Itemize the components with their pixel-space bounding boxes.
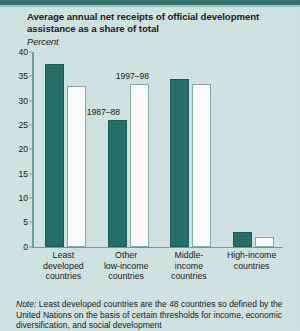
axis-unit-label: Percent	[27, 37, 59, 47]
y-axis-tick-mark	[29, 52, 32, 53]
y-axis-tick-label: 35	[18, 71, 28, 81]
x-label-line: countries	[158, 271, 221, 282]
x-label-group4: High-incomecountries	[220, 250, 283, 271]
plot-area: 0510152025303540 1987–881997–98	[32, 52, 283, 248]
y-axis-tick-label: 20	[18, 144, 28, 154]
y-axis-tick-label: 25	[18, 120, 28, 130]
y-axis-tick-label: 30	[18, 96, 28, 106]
x-label-line: Least	[32, 250, 95, 261]
x-label-line: countries	[95, 271, 158, 282]
x-label-line: High-income	[220, 250, 283, 261]
figure-title: Average annual net receipts of official …	[27, 11, 289, 35]
y-axis-tick-label: 10	[18, 193, 28, 203]
note-label: Note:	[16, 299, 36, 309]
bar-series1-group4	[233, 232, 252, 247]
x-label-line: countries	[220, 261, 283, 272]
x-axis-line	[32, 247, 283, 249]
y-axis-tick-mark	[29, 149, 32, 150]
y-axis-tick-label: 5	[23, 217, 28, 227]
series-annotation-1: 1987–88	[87, 107, 120, 117]
x-label-line: Middle-	[158, 250, 221, 261]
y-axis-tick-mark	[29, 100, 32, 101]
bar-series1-group3	[170, 79, 189, 247]
y-axis-tick-mark	[29, 222, 32, 223]
bar-series1-group2	[108, 120, 127, 246]
note-line-1: Least developed countries are the 48 cou…	[39, 299, 269, 309]
x-label-line: countries	[32, 271, 95, 282]
figure-title-line-1: Average annual net receipts of official …	[27, 11, 289, 23]
x-label-line: Other	[95, 250, 158, 261]
x-label-group3: Middle-incomecountries	[158, 250, 221, 282]
figure-title-line-2: assistance as a share of total	[27, 23, 289, 35]
x-label-group2: Otherlow-incomecountries	[95, 250, 158, 282]
bar-series2-group3	[192, 84, 211, 247]
series-annotation-2: 1997–98	[116, 71, 149, 81]
y-axis-tick-mark	[29, 246, 32, 247]
bar-series1-group1	[45, 64, 64, 246]
y-axis-line	[32, 52, 34, 248]
y-axis-tick-mark	[29, 173, 32, 174]
y-axis-tick-mark	[29, 124, 32, 125]
top-rule-shadow	[0, 5, 300, 7]
bar-series2-group4	[255, 237, 274, 247]
bar-series2-group2	[130, 84, 149, 247]
x-label-line: income	[158, 261, 221, 272]
y-axis-tick-mark	[29, 76, 32, 77]
y-axis-tick-label: 0	[23, 242, 28, 252]
x-label-group1: Leastdevelopedcountries	[32, 250, 95, 282]
y-axis-tick-mark	[29, 197, 32, 198]
x-axis-category-labels: LeastdevelopedcountriesOtherlow-incomeco…	[32, 250, 283, 292]
figure-panel: Average annual net receipts of official …	[0, 0, 300, 331]
figure-note: Note: Least developed countries are the …	[16, 299, 288, 331]
bar-series2-group1	[67, 86, 86, 246]
y-axis-tick-label: 15	[18, 169, 28, 179]
x-label-line: developed	[32, 261, 95, 272]
x-label-line: low-income	[95, 261, 158, 272]
y-axis-tick-label: 40	[18, 47, 28, 57]
